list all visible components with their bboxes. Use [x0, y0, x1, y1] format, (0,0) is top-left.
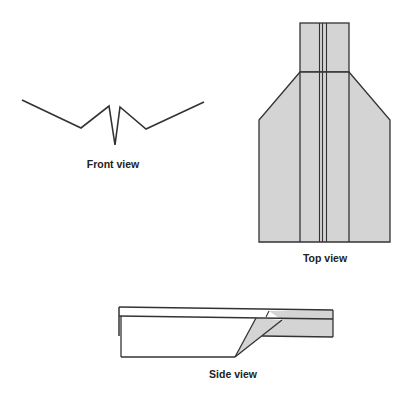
front-view-label: Front view: [87, 158, 140, 170]
side-view-label: Side view: [209, 368, 258, 380]
front-view-outline: [22, 100, 204, 145]
top-view: Top view: [259, 23, 390, 264]
front-view: Front view: [22, 100, 204, 170]
top-view-nose: [300, 23, 349, 72]
paper-airplane-diagram: Front view Top view Side view: [0, 0, 413, 402]
top-view-body: [259, 72, 390, 242]
side-view: Side view: [119, 307, 333, 380]
top-view-label: Top view: [303, 252, 348, 264]
